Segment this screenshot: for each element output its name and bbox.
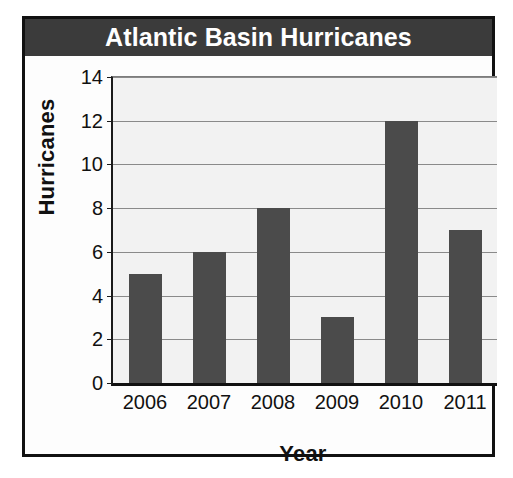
y-axis-tick-label: 10 — [81, 154, 103, 174]
y-axis-tick-mark — [107, 208, 113, 209]
y-axis-tick-label: 0 — [92, 373, 103, 393]
y-axis-tick-mark — [107, 164, 113, 165]
gridline — [113, 208, 497, 209]
y-axis-tick-label: 2 — [92, 329, 103, 349]
y-axis-tick-mark — [107, 77, 113, 78]
gridline — [113, 77, 497, 78]
y-axis-tick-mark — [107, 296, 113, 297]
y-axis-tick-mark — [107, 339, 113, 340]
bar — [449, 230, 482, 383]
x-axis-tick-label: 2007 — [187, 392, 232, 412]
x-axis-tick-label: 2010 — [379, 392, 424, 412]
bar — [385, 121, 418, 383]
x-axis-tick-label: 2008 — [251, 392, 296, 412]
y-axis-tick-label: 6 — [92, 242, 103, 262]
y-axis-tick-label: 4 — [92, 286, 103, 306]
gridline — [113, 164, 497, 165]
chart-title-banner: Atlantic Basin Hurricanes — [25, 19, 492, 56]
chart-figure-frame: Atlantic Basin Hurricanes Hurricanes 024… — [22, 16, 495, 457]
y-axis-tick-label: 12 — [81, 111, 103, 131]
y-axis-tick-label: 8 — [92, 198, 103, 218]
gridline — [113, 121, 497, 122]
plot-area: 02468101214200620072008200920102011 — [111, 76, 497, 386]
x-axis-tick-label: 2009 — [315, 392, 360, 412]
bar — [193, 252, 226, 383]
gridline — [113, 296, 497, 297]
y-axis-tick-mark — [107, 121, 113, 122]
page-title: Atlantic Basin Hurricanes — [105, 25, 412, 50]
gridline — [113, 339, 497, 340]
gridline — [113, 252, 497, 253]
x-axis-tick-label: 2011 — [443, 392, 486, 412]
bar — [129, 274, 162, 383]
x-axis-title: Year — [111, 441, 495, 467]
y-axis-tick-mark — [107, 252, 113, 253]
y-axis-title: Hurricanes — [34, 92, 60, 222]
bar — [321, 317, 354, 383]
y-axis-tick-mark — [107, 383, 113, 384]
x-axis-tick-label: 2006 — [123, 392, 168, 412]
bar — [257, 208, 290, 383]
y-axis-tick-label: 14 — [81, 67, 103, 87]
chart-body: Hurricanes 02468101214200620072008200920… — [25, 56, 492, 454]
